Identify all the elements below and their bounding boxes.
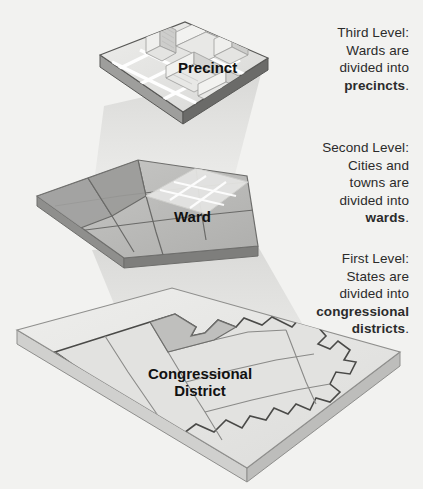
annotation-first-line4: districts. <box>239 320 409 338</box>
congressional-district-label: Congressional District <box>140 365 260 400</box>
congressional-district-label-line1: Congressional <box>140 365 260 382</box>
annotation-first-line2: divided into <box>239 285 409 303</box>
annotation-first-level: First Level: States are divided into con… <box>239 250 409 338</box>
annotation-first-heading: First Level: <box>239 250 409 268</box>
ward-label: Ward <box>174 208 211 225</box>
annotation-third-level: Third Level: Wards are divided into prec… <box>239 24 409 94</box>
layer-ward <box>37 160 258 268</box>
annotation-second-line3: divided into <box>239 192 409 210</box>
annotation-third-line2: divided into <box>239 59 409 77</box>
annotation-second-level: Second Level: Cities and towns are divid… <box>239 139 409 227</box>
annotation-second-period: . <box>405 210 409 225</box>
annotation-first-period: . <box>405 321 409 336</box>
precinct-label: Precinct <box>178 59 237 76</box>
annotation-second-line4: wards. <box>239 209 409 227</box>
diagram-figure: Precinct Ward Congressional District Thi… <box>0 0 423 501</box>
annotation-third-period: . <box>405 78 409 93</box>
annotation-first-emphasis2: districts <box>352 321 405 336</box>
annotation-second-line2: towns are <box>239 174 409 192</box>
congressional-district-label-line2: District <box>140 382 260 399</box>
annotation-first-line3: congressional <box>239 303 409 321</box>
annotation-third-line1: Wards are <box>239 42 409 60</box>
annotation-second-emphasis: wards <box>366 210 406 225</box>
annotation-second-line1: Cities and <box>239 157 409 175</box>
annotation-second-heading: Second Level: <box>239 139 409 157</box>
annotation-third-line3: precincts. <box>239 77 409 95</box>
annotation-third-heading: Third Level: <box>239 24 409 42</box>
annotation-first-emphasis: congressional <box>316 304 409 319</box>
annotation-first-line1: States are <box>239 268 409 286</box>
annotation-third-emphasis: precincts <box>344 78 405 93</box>
